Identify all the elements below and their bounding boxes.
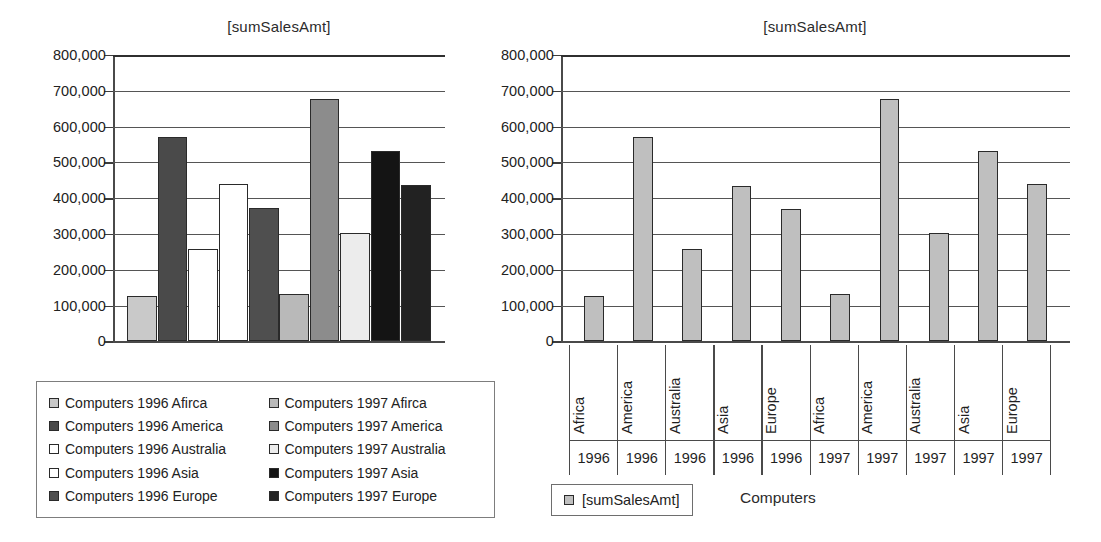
category-region-cell: Asia xyxy=(955,345,1002,441)
category-year-label: 1996 xyxy=(762,441,809,475)
legend-swatch-icon xyxy=(49,444,59,454)
legend-item[interactable]: Computers 1996 Australia xyxy=(49,438,265,461)
bar xyxy=(310,99,340,341)
category-region-cell: Africa xyxy=(570,345,617,441)
bar xyxy=(188,249,218,341)
legend-label: Computers 1997 Afirca xyxy=(285,395,427,411)
category-year-label: 1997 xyxy=(1003,441,1050,475)
legend-swatch-icon xyxy=(269,468,279,478)
right-chart-plot-area xyxy=(561,55,1070,343)
legend-item[interactable]: Computers 1996 Europe xyxy=(49,485,265,508)
left-chart-legend: Computers 1996 AfircaComputers 1997 Afir… xyxy=(36,381,495,518)
category-year-label: 1996 xyxy=(666,441,713,475)
category-column: Africa1996 xyxy=(569,345,618,475)
bar xyxy=(633,137,653,341)
right-x-axis-line xyxy=(561,341,1070,343)
right-chart-category-table: Africa1996America1996Australia1996Asia19… xyxy=(569,345,1062,475)
category-year-label: 1996 xyxy=(618,441,665,475)
category-year-label: 1997 xyxy=(811,441,858,475)
legend-swatch-icon xyxy=(49,398,59,408)
gridline xyxy=(113,55,445,57)
bar xyxy=(682,249,702,342)
legend-item[interactable]: Computers 1996 America xyxy=(49,414,265,437)
legend-label: Computers 1996 Afirca xyxy=(65,395,207,411)
legend-swatch-icon xyxy=(269,491,279,501)
right-chart-x-axis-label: Computers xyxy=(740,489,816,507)
chart-canvas: [sumSalesAmt] 800,000700,000600,000500,0… xyxy=(0,0,1101,542)
legend-item[interactable]: Computers 1997 Asia xyxy=(269,461,485,484)
category-region-label: Europe xyxy=(763,387,779,434)
category-region-label: Africa xyxy=(571,397,587,434)
legend-label: Computers 1996 America xyxy=(65,418,223,434)
bar xyxy=(978,151,998,341)
bar xyxy=(781,209,801,341)
bar xyxy=(1027,184,1047,341)
legend-label: Computers 1997 Europe xyxy=(285,488,438,504)
y-axis-tick-label: 400,000 xyxy=(501,190,554,206)
bar xyxy=(584,296,604,342)
category-year-label: 1997 xyxy=(955,441,1002,475)
bar xyxy=(880,99,900,342)
gridline xyxy=(561,91,1070,92)
right-chart-title: [sumSalesAmt] xyxy=(560,18,1070,35)
bar xyxy=(929,233,949,341)
y-axis-tick-label: 400,000 xyxy=(53,190,106,206)
legend-item[interactable]: Computers 1996 Asia xyxy=(49,461,265,484)
category-column: Africa1997 xyxy=(810,345,859,475)
legend-item[interactable]: Computers 1997 Australia xyxy=(269,438,485,461)
y-axis-tick-label: 300,000 xyxy=(53,226,106,242)
y-axis-tick-label: 500,000 xyxy=(501,154,554,170)
category-region-cell: Europe xyxy=(1003,345,1050,441)
legend-label: Computers 1997 Asia xyxy=(285,465,419,481)
bar xyxy=(830,294,850,341)
category-region-cell: Europe xyxy=(762,345,809,441)
left-x-axis-line xyxy=(113,341,445,343)
y-axis-tick-label: 600,000 xyxy=(53,119,106,135)
y-axis-tick-label: 300,000 xyxy=(501,226,554,242)
category-column: America1997 xyxy=(858,345,907,475)
y-axis-tick-label: 700,000 xyxy=(53,83,106,99)
bar xyxy=(732,186,752,341)
category-year-label: 1996 xyxy=(714,441,761,475)
legend-item[interactable]: Computers 1996 Afirca xyxy=(49,391,265,414)
category-year-label: 1997 xyxy=(859,441,906,475)
bar xyxy=(371,151,401,342)
category-year-label: 1997 xyxy=(907,441,954,475)
category-region-cell: Asia xyxy=(714,345,761,441)
category-column: Asia1997 xyxy=(954,345,1003,475)
category-region-label: Australia xyxy=(907,378,923,434)
legend-item[interactable]: Computers 1997 America xyxy=(269,414,485,437)
bar xyxy=(249,208,279,342)
y-axis-tick-label: 200,000 xyxy=(501,262,554,278)
legend-swatch-icon xyxy=(49,421,59,431)
category-region-label: Africa xyxy=(811,397,827,434)
y-axis-tick-label: 0 xyxy=(98,333,106,349)
y-axis-tick-label: 700,000 xyxy=(501,83,554,99)
bar xyxy=(340,233,370,341)
y-axis-tick-label: 100,000 xyxy=(53,298,106,314)
right-legend-label: [sumSalesAmt] xyxy=(582,492,680,508)
legend-item[interactable]: Computers 1997 Afirca xyxy=(269,391,485,414)
y-axis-tick-label: 600,000 xyxy=(501,119,554,135)
legend-swatch-icon xyxy=(269,398,279,408)
legend-swatch-icon xyxy=(269,421,279,431)
category-column: Europe1996 xyxy=(761,345,810,475)
category-region-label: America xyxy=(859,381,875,434)
category-region-label: Europe xyxy=(1004,387,1020,434)
gridline xyxy=(113,127,445,128)
bar xyxy=(219,184,249,341)
y-axis-tick-label: 800,000 xyxy=(501,47,554,63)
legend-item[interactable]: Computers 1997 Europe xyxy=(269,485,485,508)
y-axis-tick-label: 100,000 xyxy=(501,298,554,314)
bar xyxy=(401,185,431,342)
y-axis-tick-label: 200,000 xyxy=(53,262,106,278)
legend-swatch-icon xyxy=(269,444,279,454)
category-region-label: America xyxy=(619,381,635,434)
legend-label: Computers 1996 Asia xyxy=(65,465,199,481)
left-chart-plot-area xyxy=(113,55,445,343)
y-axis-tick-label: 500,000 xyxy=(53,154,106,170)
category-column: Europe1997 xyxy=(1002,345,1051,475)
category-year-label: 1996 xyxy=(570,441,617,475)
category-region-label: Asia xyxy=(715,406,731,434)
category-region-cell: Africa xyxy=(811,345,858,441)
